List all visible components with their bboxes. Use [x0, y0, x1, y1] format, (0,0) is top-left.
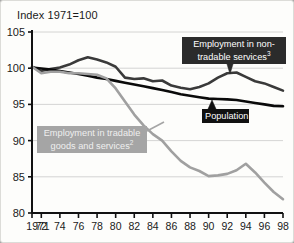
x-tick-label: 76: [73, 220, 85, 232]
x-tick-label: 78: [91, 220, 103, 232]
x-tick-label: 86: [166, 220, 178, 232]
annotation-nontradable-line1: Employment in non-: [193, 39, 275, 49]
x-tick-label: 88: [184, 220, 196, 232]
x-tick-label: 74: [54, 220, 66, 232]
annotation-tradable-superscript: 2: [130, 139, 134, 146]
annotation-tradable-line2: goods and services: [51, 141, 130, 151]
y-tick-label: 85: [13, 171, 25, 183]
x-tick-label: 92: [221, 220, 233, 232]
x-tick-label: 94: [240, 220, 252, 232]
y-tick-label: 100: [7, 62, 25, 74]
annotation-population-label: Population: [205, 111, 248, 121]
chart-figure: Index 1971=100 10510095908580 1971727476…: [0, 0, 294, 243]
annotation-tradable-line1: Employment in tradable: [44, 128, 141, 138]
x-tick-label: 82: [128, 220, 140, 232]
y-tick-label: 80: [13, 207, 25, 219]
annotation-nontradable-line2: tradable services: [197, 52, 266, 62]
y-tick-label: 95: [13, 98, 25, 110]
x-tick-label: 98: [277, 220, 289, 232]
x-tick-label: 96: [259, 220, 271, 232]
y-tick-label: 90: [13, 135, 25, 147]
x-tick-label: 72: [35, 220, 47, 232]
y-tick-label: 105: [7, 26, 25, 38]
annotation-tradable-goods: Employment in tradable goods and service…: [37, 126, 147, 153]
annotation-nontradable-superscript: 3: [267, 50, 271, 57]
annotation-population: Population: [202, 109, 249, 123]
x-tick-label: 90: [203, 220, 215, 232]
y-axis-tick-labels: 10510095908580: [7, 26, 25, 219]
x-tick-label: 84: [147, 220, 159, 232]
x-tick-label: 80: [110, 220, 122, 232]
annotation-pointer: [147, 122, 164, 131]
x-axis-tick-labels: 19717274767880828486889092949698: [26, 220, 289, 232]
annotation-nontradable-services: Employment in non- tradable services3: [182, 37, 286, 64]
